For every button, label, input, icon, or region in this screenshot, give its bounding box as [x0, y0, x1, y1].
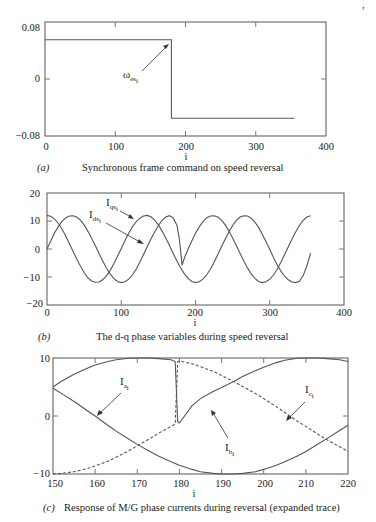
arrow-head-icon [128, 214, 134, 219]
panel-c-tag: (c) [43, 502, 55, 514]
ib-curve [53, 358, 348, 423]
panel-b-caption: The d-q phase variables during speed rev… [96, 331, 289, 342]
panel-b-ytick-0: 20 [30, 188, 41, 199]
omega-arrow [142, 46, 167, 71]
panel-b-ytick-3: −10 [24, 272, 40, 283]
panel-c-xtick-2: 170 [131, 478, 147, 489]
panel-b-xtick-3: 300 [262, 307, 278, 318]
panel-b-ytick-4: −20 [27, 298, 43, 309]
page-mark: , [362, 0, 365, 10]
panel-a-ytick-1: 0 [35, 73, 40, 84]
panel-a-ytick-0: 0.08 [22, 22, 40, 33]
panel-a-ticks [45, 22, 326, 136]
ic-label: Ici [305, 383, 314, 400]
panel-c-xtick-7: 220 [340, 478, 356, 489]
panel-c-ticks [53, 358, 348, 474]
ids-curve [47, 215, 311, 282]
panel-b-xtick-4: 400 [336, 307, 352, 318]
panel-c-xlabel: i [193, 488, 196, 499]
ids-arrow [106, 223, 140, 242]
panel-b-ytick-1: 10 [30, 215, 41, 226]
panel-c-ytick-0: 10 [40, 353, 51, 364]
arrow-head-icon [163, 44, 169, 49]
ia-curve [53, 388, 348, 474]
panel-b-xtick-0: 0 [44, 307, 49, 318]
panel-b-ytick-2: 0 [35, 244, 40, 255]
panel-c-xtick-3: 180 [173, 478, 189, 489]
panel-a-xtick-4: 400 [318, 141, 334, 152]
panel-a-xtick-1: 100 [108, 141, 124, 152]
figure: , 0.08 0 −0.08 0 100 200 300 400 i (a) S… [0, 0, 376, 522]
panel-c-ytick-1: 0 [45, 411, 50, 422]
iqs-curve [47, 216, 311, 283]
panel-a-ytick-2: −0.08 [16, 130, 40, 141]
panel-a: 0.08 0 −0.08 0 100 200 300 400 i (a) Syn… [16, 22, 334, 174]
panel-c-frame [53, 358, 348, 474]
panel-b: 20 10 0 −10 −20 0 100 200 300 400 i (b) … [24, 188, 352, 343]
iqs-label: Iqsi [106, 196, 118, 213]
panel-c-xtick-0: 150 [47, 478, 63, 489]
panel-a-frame [45, 22, 326, 136]
panel-c-xtick-6: 210 [298, 478, 314, 489]
arrow-head-icon [137, 239, 144, 244]
panel-a-xlabel: i [185, 151, 188, 162]
panel-b-xtick-1: 100 [113, 307, 129, 318]
arrow-head-icon [211, 410, 216, 416]
panel-c-caption: Response of M/G phase currents during re… [64, 502, 340, 514]
panel-b-tag: (b) [38, 331, 51, 343]
panel-a-caption: Synchronous frame command on speed rever… [82, 162, 284, 173]
ia-label: Iai [120, 375, 129, 392]
ib-arrow [213, 413, 228, 438]
panel-a-xtick-3: 300 [248, 141, 264, 152]
ib-label: Ibi [225, 441, 234, 458]
panel-b-xlabel: i [194, 317, 197, 328]
omega-label: ωesi [123, 68, 138, 85]
panel-c-xtick-1: 160 [89, 478, 105, 489]
panel-c-xtick-4: 190 [215, 478, 231, 489]
panel-a-tag: (a) [37, 162, 50, 174]
panel-c: 10 0 −10 150 160 170 180 190 200 210 220… [34, 353, 356, 514]
panel-c-xtick-5: 200 [257, 478, 273, 489]
omega-es-curve [45, 40, 294, 118]
ids-label: Idsi [89, 208, 101, 225]
ia-arrow [100, 393, 121, 413]
ic-arrow [289, 402, 305, 418]
panel-a-xtick-0: 0 [43, 141, 48, 152]
